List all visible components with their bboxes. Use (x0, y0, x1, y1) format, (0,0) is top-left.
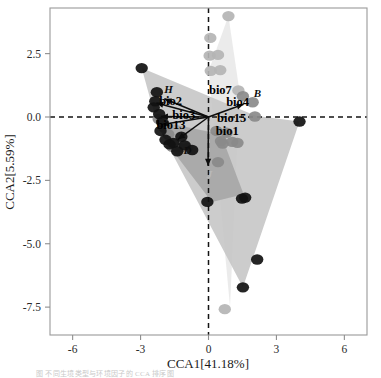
group-label-B: B (253, 87, 261, 99)
env-vector-label-bio2: bio2 (159, 94, 182, 108)
env-vector-label-bio15: bio15 (217, 111, 246, 125)
x-tick-label: 3 (274, 343, 280, 355)
data-point (222, 11, 234, 21)
y-tick-label: 2.5 (27, 48, 42, 60)
x-tick-label: -6 (68, 343, 78, 355)
data-point (204, 33, 216, 43)
data-point (251, 254, 263, 264)
data-point (231, 138, 243, 148)
data-point (136, 63, 148, 73)
y-axis-title: CCA2[5.59%] (2, 134, 17, 209)
figure-caption: 图 不同生境类型与环境因子的 CCA 排序图 (0, 368, 381, 378)
y-tick-label: -5.0 (23, 238, 41, 250)
env-vector-label-bio4: bio4 (226, 95, 250, 109)
data-point (216, 138, 228, 148)
x-tick-label: 0 (206, 343, 212, 355)
cca-plot-canvas: bio7bio2bio3bio13bio15bio4bio1 HBDJ -6-3… (0, 0, 381, 378)
data-point (293, 116, 305, 126)
data-point (214, 65, 226, 75)
env-vector-label-bio13: bio13 (156, 118, 185, 132)
data-point (212, 50, 224, 60)
data-point (212, 157, 224, 167)
data-point (239, 192, 251, 202)
x-tick-label: -3 (136, 343, 146, 355)
data-point (201, 197, 213, 207)
env-vector-label-bio1: bio1 (216, 124, 239, 138)
group-label-H: H (163, 83, 173, 95)
data-point (219, 304, 231, 314)
group-label-D: D (183, 144, 192, 156)
cca-ordination-figure: bio7bio2bio3bio13bio15bio4bio1 HBDJ -6-3… (0, 0, 381, 378)
y-tick-label: 0.0 (27, 111, 42, 123)
y-tick-label: -7.5 (23, 301, 41, 313)
x-tick-label: 6 (341, 343, 347, 355)
group-label-J: J (206, 168, 213, 180)
data-point (237, 282, 249, 292)
y-tick-label: -2.5 (23, 174, 41, 186)
data-point (249, 111, 261, 121)
